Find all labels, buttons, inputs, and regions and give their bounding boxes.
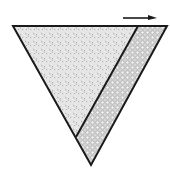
triangle-diagram xyxy=(0,0,170,170)
arrow-right-icon xyxy=(123,15,157,20)
